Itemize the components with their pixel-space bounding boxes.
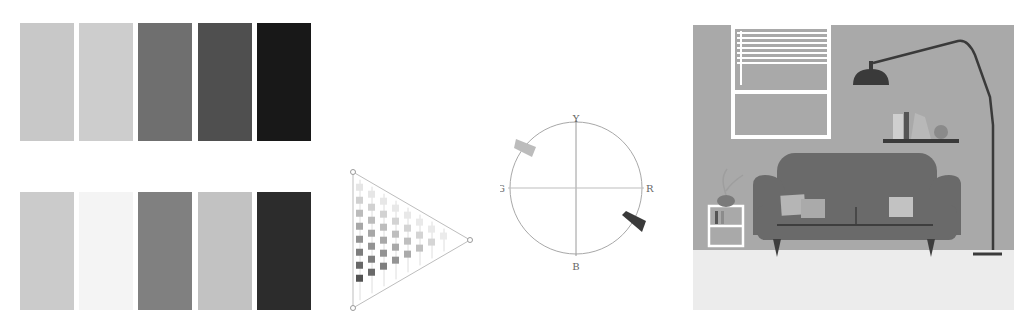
tone-square — [380, 224, 387, 231]
tone-square — [356, 184, 363, 191]
tone-square — [368, 256, 375, 263]
tone-square — [416, 232, 423, 239]
swatch-top-row-5 — [257, 23, 311, 141]
swatch-top-row-3 — [138, 23, 192, 141]
plant-pot — [717, 195, 735, 207]
tone-square — [356, 249, 363, 256]
tone-square — [416, 219, 423, 226]
cushion-2 — [801, 199, 825, 218]
tone-square — [380, 211, 387, 218]
tone-square — [368, 191, 375, 198]
dark-sample-marker — [622, 211, 646, 232]
swatch-bottom-row-5 — [257, 192, 311, 310]
tone-square — [368, 243, 375, 250]
swatch-bottom-row-2 — [79, 192, 133, 310]
swatch-bottom-row-4 — [198, 192, 252, 310]
tone-square — [416, 245, 423, 252]
vertex-markers — [351, 170, 473, 311]
tone-square — [380, 263, 387, 270]
tone-square — [356, 223, 363, 230]
tone-square — [404, 251, 411, 258]
color-wheel-diagram: Y G R B — [500, 105, 660, 275]
tone-square — [404, 212, 411, 219]
tone-square — [356, 236, 363, 243]
book-light — [893, 114, 903, 139]
tone-square — [380, 237, 387, 244]
vertex-top — [351, 170, 356, 175]
book-dark — [904, 112, 909, 139]
swatch-bottom-row-1 — [20, 192, 74, 310]
shelf-ball — [934, 125, 948, 139]
label-b: B — [572, 261, 579, 272]
label-g: G — [500, 183, 505, 194]
swatch-top-row-4 — [198, 23, 252, 141]
tone-square — [404, 238, 411, 245]
label-r: R — [646, 183, 654, 194]
tone-square — [368, 230, 375, 237]
tone-square — [380, 250, 387, 257]
swatch-bottom-row-3 — [138, 192, 192, 310]
tone-square — [404, 225, 411, 232]
tone-square — [356, 262, 363, 269]
tone-square — [380, 198, 387, 205]
tone-square — [428, 226, 435, 233]
tone-square — [428, 239, 435, 246]
tone-square — [392, 244, 399, 251]
tone-square — [392, 231, 399, 238]
tone-triangle-diagram — [340, 160, 480, 320]
vertex-bottom — [351, 306, 356, 311]
tone-square — [368, 204, 375, 211]
tone-square — [368, 269, 375, 276]
living-room-illustration — [693, 25, 1018, 315]
tone-square — [440, 233, 447, 240]
cushion-3 — [889, 197, 913, 217]
floor — [693, 250, 1014, 310]
tone-square — [368, 217, 375, 224]
swatch-top-row-1 — [20, 23, 74, 141]
tone-square — [392, 218, 399, 225]
light-sample-marker — [514, 139, 536, 157]
tone-square — [392, 257, 399, 264]
swatch-top-row-2 — [79, 23, 133, 141]
tone-square — [356, 275, 363, 282]
label-y: Y — [572, 113, 580, 124]
vertex-right — [468, 238, 473, 243]
tone-square — [356, 210, 363, 217]
tone-square — [392, 205, 399, 212]
tone-square — [356, 197, 363, 204]
